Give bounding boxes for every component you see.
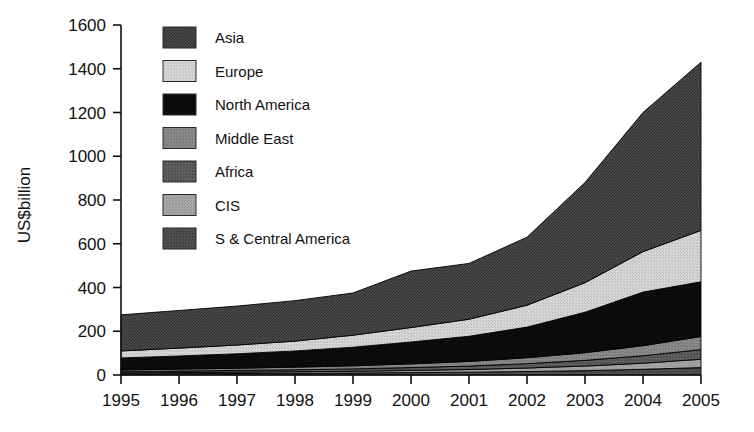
y-tick-label: 0 [97,366,106,385]
y-tick-label: 1600 [68,16,106,35]
x-tick-label: 1999 [334,391,372,410]
x-tick-label: 2004 [624,391,662,410]
legend-swatch-middle-east [163,128,196,149]
legend-label-s-central-america: S & Central America [215,230,351,247]
legend-label-middle-east: Middle East [215,130,294,147]
legend-label-north-america: North America [215,96,311,113]
x-tick-label: 1995 [102,391,140,410]
x-tick-label: 1998 [276,391,314,410]
chart-canvas: 02004006008001000120014001600 1995199619… [0,0,754,432]
x-tick-label: 2001 [450,391,488,410]
legend-label-cis: CIS [215,197,240,214]
y-tick-label: 800 [78,191,106,210]
legend-label-europe: Europe [215,63,263,80]
legend-swatch-asia [163,27,196,48]
stacked-area-chart: 02004006008001000120014001600 1995199619… [0,0,754,432]
legend-swatch-europe [163,61,196,82]
legend-label-asia: Asia [215,29,245,46]
x-tick-label: 2000 [392,391,430,410]
y-axis-title: US$billion [15,167,34,244]
x-tick-label: 1996 [160,391,198,410]
legend-label-africa: Africa [215,163,254,180]
y-tick-label: 200 [78,322,106,341]
x-tick-label: 2003 [566,391,604,410]
series-area-group [121,62,701,375]
x-tick-label: 2005 [682,391,720,410]
y-tick-label: 400 [78,279,106,298]
x-axis-ticks: 1995199619971998199920002001200220032004… [102,375,720,410]
y-axis-ticks: 02004006008001000120014001600 [68,16,121,385]
x-tick-label: 2002 [508,391,546,410]
legend-swatch-cis [163,195,196,216]
y-tick-label: 1200 [68,104,106,123]
y-tick-label: 600 [78,235,106,254]
y-tick-label: 1000 [68,147,106,166]
chart-legend: AsiaEuropeNorth AmericaMiddle EastAfrica… [163,27,351,249]
legend-swatch-north-america [163,94,196,115]
x-tick-label: 1997 [218,391,256,410]
y-tick-label: 1400 [68,60,106,79]
legend-swatch-africa [163,161,196,182]
legend-swatch-s-central-america [163,228,196,249]
